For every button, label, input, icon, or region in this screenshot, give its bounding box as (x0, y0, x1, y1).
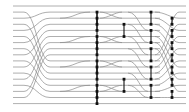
comparator-node-icon (123, 35, 126, 38)
comparators (96, 11, 174, 105)
comparator-node-icon (171, 53, 174, 56)
comparator-node-icon (96, 66, 99, 69)
comparator-node-icon (123, 90, 126, 93)
wire-crossing (24, 12, 50, 18)
wire-crossing (128, 37, 148, 55)
comparator-node-icon (150, 60, 153, 63)
comparator-node-icon (96, 29, 99, 32)
wire-crossing (100, 12, 122, 18)
comparator-node-icon (171, 96, 174, 99)
comparator-node-icon (123, 78, 126, 81)
comparator-node-icon (96, 11, 99, 14)
comparator-node-icon (150, 96, 153, 99)
wire-crossing (128, 61, 148, 79)
comparator-node-icon (96, 17, 99, 20)
wire-crossing (60, 37, 90, 43)
comparator-node-icon (171, 60, 174, 63)
comparator-node-icon (171, 78, 174, 81)
comparator-node-icon (96, 35, 99, 38)
comparator-node-icon (171, 41, 174, 44)
comparator-node-icon (150, 23, 153, 26)
comparator-node-icon (96, 78, 99, 81)
comparator-node-icon (150, 11, 153, 14)
comparator-node-icon (150, 47, 153, 50)
wire-crossing (100, 61, 122, 67)
comparator-node-icon (96, 90, 99, 93)
comparator-node-icon (171, 35, 174, 38)
comparator-node-icon (96, 53, 99, 56)
wire-crossing (128, 12, 148, 30)
wire-crossing (24, 49, 50, 79)
comparator-node-icon (96, 60, 99, 63)
wire-crossing (24, 18, 50, 30)
wire-crossing (128, 49, 148, 67)
wire-crossing (24, 37, 50, 68)
wire-crossing (24, 24, 50, 42)
wires (13, 6, 186, 104)
comparator-node-icon (96, 41, 99, 44)
comparator-node-icon (171, 72, 174, 75)
comparator-node-icon (150, 78, 153, 81)
wire-crossing (100, 85, 122, 91)
comparator-node-icon (171, 23, 174, 26)
wire-crossing (60, 85, 90, 91)
comparator-node-icon (171, 66, 174, 69)
comparator-node-icon (150, 84, 153, 87)
comparator-node-icon (150, 41, 153, 44)
wire-crossing (128, 73, 148, 91)
comparator-node-icon (171, 17, 174, 20)
comparator-node-icon (171, 90, 174, 93)
comparator-node-icon (171, 29, 174, 32)
wire-crossing (100, 37, 122, 43)
comparator-node-icon (150, 29, 153, 32)
sorting-network-diagram (0, 0, 189, 112)
comparator-node-icon (123, 23, 126, 26)
comparator-node-icon (96, 102, 99, 105)
comparator-node-icon (171, 47, 174, 50)
wire-crossing (128, 24, 148, 42)
wire-crossing (60, 12, 90, 18)
comparator-node-icon (150, 66, 153, 69)
comparator-node-icon (96, 84, 99, 87)
comparator-node-icon (171, 84, 174, 87)
wire-crossing (60, 61, 90, 67)
